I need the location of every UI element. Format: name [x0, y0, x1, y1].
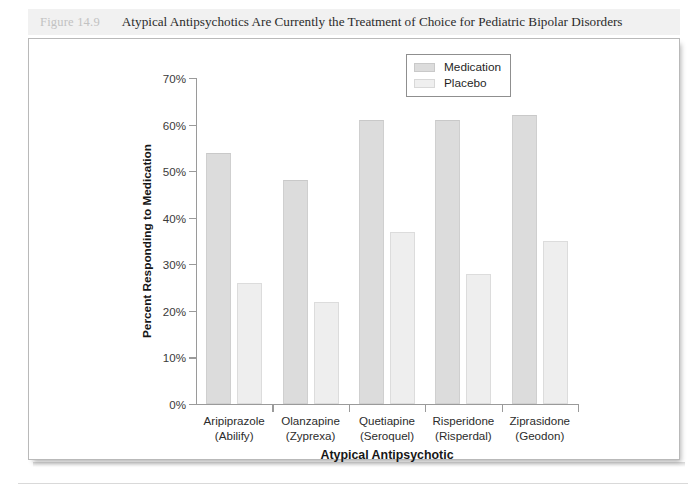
legend-item-placebo: Placebo	[414, 75, 501, 91]
panel-shadow	[33, 462, 685, 467]
legend-label-medication: Medication	[444, 60, 501, 74]
chart-panel	[28, 38, 680, 460]
figure-page: Figure 14.9 Atypical Antipsychotics Are …	[0, 0, 691, 492]
legend-swatch-placebo	[414, 79, 435, 88]
figure-caption-band: Figure 14.9 Atypical Antipsychotics Are …	[28, 9, 680, 35]
legend-item-medication: Medication	[414, 59, 501, 75]
chart-legend: Medication Placebo	[406, 54, 511, 97]
figure-number: Figure 14.9	[28, 15, 100, 30]
legend-label-placebo: Placebo	[444, 76, 487, 90]
page-bottom-rule	[18, 483, 688, 484]
figure-title: Atypical Antipsychotics Are Currently th…	[100, 14, 623, 30]
legend-swatch-medication	[414, 63, 435, 72]
